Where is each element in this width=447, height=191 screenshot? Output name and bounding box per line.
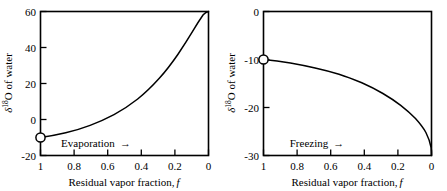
x-axis-title: Residual vapor fraction,f <box>291 176 404 188</box>
x-tick-label: 0.8 <box>290 160 304 172</box>
annotation-text: Freezing <box>290 137 329 149</box>
y-tick-label: 60 <box>25 6 37 18</box>
svg-text:Freezing→: Freezing→ <box>290 137 344 149</box>
y-axis-title-rest: O of water <box>2 53 14 100</box>
figure-container: 60 40 20 0 -20 1 0.8 0.6 0.4 0.2 0 <box>0 0 447 191</box>
y-tick-label: 20 <box>25 78 37 90</box>
x-axis-title-text: Residual vapor fraction, <box>68 176 174 188</box>
freezing-plot-svg: 0 -10 -20 -30 1 0.8 0.6 0.4 0.2 0 Residu… <box>223 0 446 191</box>
x-tick-label: 0 <box>429 160 435 172</box>
arrow-right-icon: → <box>120 137 131 149</box>
annotation-freezing: Freezing→ <box>290 137 344 149</box>
x-tick-label: 0.8 <box>67 160 81 172</box>
axes-rectangle <box>264 12 432 156</box>
x-tick-label: 1 <box>261 160 267 172</box>
x-tick-labels: 1 0.8 0.6 0.4 0.2 0 <box>38 160 212 172</box>
evaporation-plot-svg: 60 40 20 0 -20 1 0.8 0.6 0.4 0.2 0 <box>0 0 223 191</box>
annotation-evaporation: Evaporation→ <box>61 137 131 149</box>
y-tick-label: 0 <box>254 6 260 18</box>
x-axis-title-text: Residual vapor fraction, <box>291 176 397 188</box>
svg-text:δ18O of water: δ18O of water <box>224 53 237 113</box>
svg-text:δ18O of water: δ18O of water <box>1 53 14 113</box>
svg-text:Evaporation→: Evaporation→ <box>61 137 131 149</box>
y-tick-labels: 0 -10 -20 -30 <box>244 6 259 162</box>
x-axis-title-symbol: f <box>176 176 181 188</box>
y-axis-title-rest: O of water <box>225 53 237 100</box>
chart-panel-freezing: 0 -10 -20 -30 1 0.8 0.6 0.4 0.2 0 Residu… <box>223 0 446 191</box>
x-tick-label: 0.4 <box>357 160 371 172</box>
y-tick-label: -10 <box>244 54 259 66</box>
x-tick-label: 0.2 <box>391 160 405 172</box>
x-tick-label: 0.6 <box>324 160 338 172</box>
start-marker-open-circle <box>36 133 45 142</box>
y-tick-label: -20 <box>21 150 36 162</box>
start-marker-open-circle <box>259 55 268 64</box>
y-axis-title: δ18O of water <box>1 53 14 113</box>
svg-text:Residual vapor fraction,f: Residual vapor fraction,f <box>291 176 404 188</box>
axes-rectangle <box>41 12 209 156</box>
chart-panel-evaporation: 60 40 20 0 -20 1 0.8 0.6 0.4 0.2 0 <box>0 0 223 191</box>
y-tick-label: -30 <box>244 150 259 162</box>
annotation-text: Evaporation <box>61 137 115 149</box>
x-axis-title: Residual vapor fraction,f <box>68 176 181 188</box>
svg-text:Residual vapor fraction,f: Residual vapor fraction,f <box>68 176 181 188</box>
y-tick-label: -20 <box>244 102 259 114</box>
y-tick-labels: 60 40 20 0 -20 <box>21 6 36 162</box>
x-tick-label: 1 <box>38 160 44 172</box>
plot-frame <box>41 12 209 156</box>
x-tick-label: 0.2 <box>168 160 182 172</box>
x-axis-title-symbol: f <box>399 176 404 188</box>
y-tick-label: 40 <box>25 42 37 54</box>
y-axis-title: δ18O of water <box>224 53 237 113</box>
x-tick-label: 0.4 <box>134 160 148 172</box>
x-tick-label: 0 <box>206 160 212 172</box>
x-tick-label: 0.6 <box>101 160 115 172</box>
x-tick-labels: 1 0.8 0.6 0.4 0.2 0 <box>261 160 435 172</box>
arrow-right-icon: → <box>333 137 344 149</box>
y-tick-label: 0 <box>31 114 37 126</box>
plot-frame <box>264 12 432 156</box>
